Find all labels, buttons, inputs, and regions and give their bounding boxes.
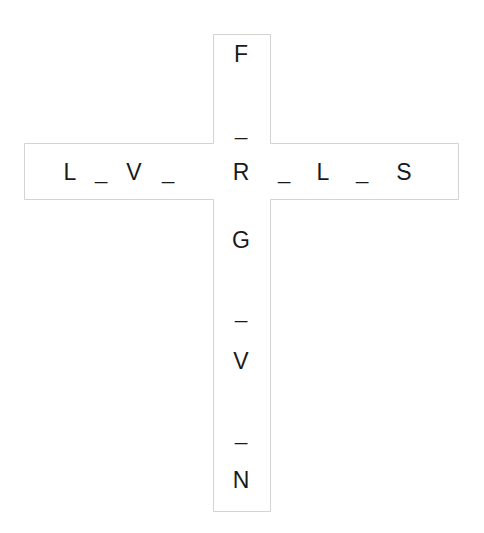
blank-cell[interactable]: _ (226, 115, 256, 141)
blank-cell[interactable]: _ (269, 159, 299, 185)
blank-cell[interactable]: _ (153, 159, 183, 185)
letter-cell: L (55, 159, 85, 185)
letter-cell: N (226, 467, 256, 493)
letter-cell: V (226, 348, 256, 374)
letter-cell: V (119, 159, 149, 185)
letter-cell: F (226, 41, 256, 67)
blank-cell[interactable]: _ (226, 420, 256, 446)
blank-cell[interactable]: _ (86, 159, 116, 185)
letter-cell: S (389, 159, 419, 185)
cross-outline (0, 0, 484, 533)
letter-cell: G (226, 227, 256, 253)
blank-cell[interactable]: _ (347, 159, 377, 185)
letter-cell: L (308, 159, 338, 185)
shared-letter-cell: R (226, 159, 256, 185)
blank-cell[interactable]: _ (226, 298, 256, 324)
